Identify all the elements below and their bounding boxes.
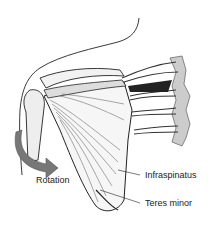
shoulder-illustration: [0, 0, 220, 229]
humerus: [24, 90, 44, 162]
teres-minor-label: Teres minor: [145, 199, 192, 208]
anatomy-figure: Rotation Infraspinatus Teres minor: [0, 0, 220, 229]
scapula: [44, 82, 132, 211]
rotation-label: Rotation: [36, 176, 70, 185]
infraspinatus-label: Infraspinatus: [145, 171, 197, 180]
rib-shadow: [128, 80, 172, 92]
